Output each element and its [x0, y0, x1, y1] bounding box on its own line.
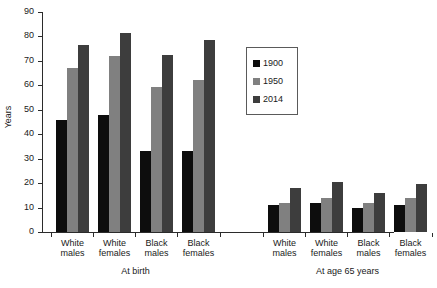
legend-item-1950: 1950 [247, 72, 297, 90]
y-axis-tick-label: 30 [8, 153, 34, 163]
x-axis-tick [135, 233, 136, 237]
bar [120, 33, 131, 232]
bar [405, 198, 416, 232]
bar [98, 115, 109, 232]
y-axis-tick-label: 60 [8, 79, 34, 89]
bar [182, 151, 193, 232]
x-axis-tick [177, 233, 178, 237]
x-axis-tick [220, 233, 221, 237]
x-axis-tick [93, 233, 94, 237]
bar [374, 193, 385, 232]
y-axis-tick-label: 70 [8, 55, 34, 65]
y-axis-tick: 60 [38, 85, 42, 86]
legend-label-1950: 1950 [263, 77, 283, 86]
x-axis-tick [263, 233, 264, 237]
y-axis-tick-label: 10 [8, 202, 34, 212]
x-axis-tick [389, 233, 390, 237]
y-axis-tick-label: 20 [8, 177, 34, 187]
y-axis-tick-label: 50 [8, 104, 34, 114]
legend-item-2014: 2014 [247, 90, 297, 108]
bar [352, 208, 363, 232]
legend-swatch-1900 [253, 60, 260, 67]
bar [279, 203, 290, 232]
bar [363, 203, 374, 232]
legend-label-1900: 1900 [263, 59, 283, 68]
y-axis-tick-label: 90 [8, 6, 34, 16]
bar [109, 56, 120, 232]
y-axis-tick: 70 [38, 61, 42, 62]
y-axis-tick-label: 40 [8, 128, 34, 138]
bar [193, 80, 204, 232]
x-axis-category-label: Blackfemales [381, 238, 437, 258]
y-axis-tick: 0 [38, 232, 42, 233]
x-axis-tick [432, 233, 433, 237]
y-axis-line [42, 12, 43, 233]
x-axis-tick [347, 233, 348, 237]
y-axis-tick: 30 [38, 159, 42, 160]
x-axis-category-label: Blackfemales [169, 238, 229, 258]
group-label: At birth [76, 266, 196, 276]
bar [140, 151, 151, 232]
x-axis-tick [51, 233, 52, 237]
bar [290, 188, 301, 232]
y-axis-tick-label: 0 [8, 226, 34, 236]
bar [310, 203, 321, 232]
bar [78, 45, 89, 232]
bar [204, 40, 215, 232]
legend-label-2014: 2014 [263, 95, 283, 104]
y-axis-tick: 40 [38, 134, 42, 135]
x-axis-line [42, 232, 394, 233]
bar [67, 68, 78, 232]
bar [332, 182, 343, 232]
bar [56, 120, 67, 232]
group-label: At age 65 years [288, 266, 408, 276]
chart-legend: 1900 1950 2014 [246, 47, 298, 115]
y-axis-tick: 90 [38, 12, 42, 13]
legend-item-1900: 1900 [247, 54, 297, 72]
y-axis-tick: 80 [38, 36, 42, 37]
x-axis-tick [305, 233, 306, 237]
y-axis-tick: 10 [38, 208, 42, 209]
bar [394, 205, 405, 232]
legend-swatch-2014 [253, 96, 260, 103]
legend-swatch-1950 [253, 78, 260, 85]
y-axis-tick-label: 80 [8, 30, 34, 40]
plot-area: 0102030405060708090 [42, 12, 394, 233]
bar [162, 55, 173, 232]
bar [321, 198, 332, 232]
bar [151, 87, 162, 232]
y-axis-tick: 50 [38, 110, 42, 111]
bar [416, 184, 427, 232]
y-axis-tick: 20 [38, 183, 42, 184]
bar [268, 205, 279, 232]
